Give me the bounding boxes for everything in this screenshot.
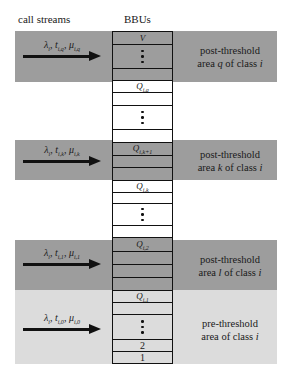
bbu-cell-1: 1 xyxy=(112,351,173,364)
bbu-cell xyxy=(112,264,173,278)
bbu-cell xyxy=(112,167,173,181)
bbu-cell-ellipsis xyxy=(112,314,173,340)
vertical-ellipsis-icon xyxy=(141,111,144,125)
vertical-ellipsis-icon xyxy=(141,50,144,64)
arrow-head-icon xyxy=(89,324,101,334)
arrow-head-icon xyxy=(89,51,101,61)
area-label-l: post-threshold area l of class i xyxy=(180,253,280,279)
area-label-pre: pre-threshold area of class i xyxy=(180,317,280,343)
call-streams-header: call streams xyxy=(18,13,70,25)
bbu-cell-v: V xyxy=(112,31,173,45)
bbu-cell-ellipsis xyxy=(112,44,173,69)
arrow-shaft xyxy=(23,263,91,266)
arrow-shaft xyxy=(23,328,91,331)
bbus-header: BBUs xyxy=(124,13,151,25)
bbu-cell xyxy=(112,129,173,143)
bbu-cell-q-i2: Qi,2 xyxy=(112,237,173,252)
arrow-shaft xyxy=(23,160,91,163)
arrow-shaft xyxy=(23,55,91,58)
arrow-head-icon xyxy=(89,259,101,269)
area-label-q: post-threshold area q of class i xyxy=(180,44,280,70)
area-label-k: post-threshold area k of class i xyxy=(180,148,280,174)
vertical-ellipsis-icon xyxy=(141,320,144,334)
bbu-cell-ellipsis xyxy=(112,203,173,226)
bbu-cell-q-ik1: Qi,k+1 xyxy=(112,142,173,156)
bbu-cell xyxy=(112,251,173,265)
bbu-cell xyxy=(112,277,173,291)
bbu-cell xyxy=(112,92,173,106)
vertical-ellipsis-icon xyxy=(141,208,144,222)
arrow-head-icon xyxy=(89,156,101,166)
bbu-cell-ellipsis xyxy=(112,105,173,130)
